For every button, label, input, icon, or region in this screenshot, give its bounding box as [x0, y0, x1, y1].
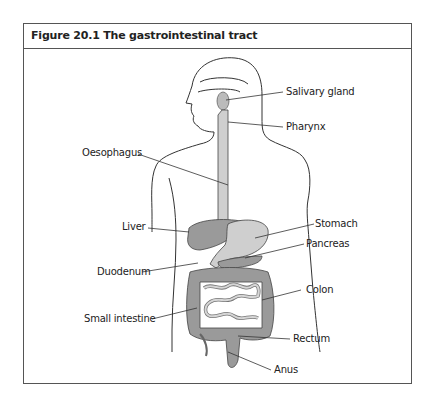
gastrointestinal-diagram — [0, 0, 436, 412]
label-rectum: Rectum — [293, 333, 330, 344]
label-colon: Colon — [306, 284, 333, 295]
label-anus: Anus — [274, 364, 298, 375]
colon — [187, 268, 274, 368]
label-duodenum: Duodenum — [97, 266, 150, 277]
oesophagus — [218, 110, 228, 236]
label-small-intestine: Small intestine — [84, 313, 156, 324]
label-stomach: Stomach — [315, 218, 358, 229]
label-salivary-gland: Salivary gland — [286, 86, 354, 97]
body-outline — [152, 58, 320, 352]
salivary-gland — [217, 92, 229, 110]
label-oesophagus: Oesophagus — [82, 147, 142, 158]
label-pharynx: Pharynx — [286, 121, 325, 132]
label-liver: Liver — [122, 221, 146, 232]
label-pancreas: Pancreas — [306, 238, 349, 249]
